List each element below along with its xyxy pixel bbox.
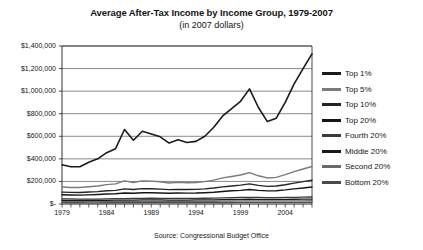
legend-swatch-icon	[322, 165, 341, 168]
legend-item-label: Top 20%	[345, 116, 376, 125]
y-axis-tick-label: $400,000	[0, 155, 56, 163]
legend-swatch-icon	[322, 103, 341, 106]
legend-swatch-icon	[322, 119, 341, 122]
legend-item-label: Fourth 20%	[345, 131, 386, 140]
x-axis-tick-label: 2004	[268, 209, 302, 217]
x-axis-tick-label: 1989	[134, 209, 168, 217]
legend-item-label: Middle 20%	[345, 147, 387, 156]
y-axis-tick-label: $1,000,000	[0, 87, 56, 95]
legend-item[interactable]: Top 20%	[322, 113, 423, 129]
legend-swatch-icon	[322, 181, 341, 184]
legend-item[interactable]: Top 5%	[322, 82, 423, 98]
legend-item-label: Second 20%	[345, 162, 390, 171]
y-axis-tick-label: $600,000	[0, 132, 56, 140]
y-axis-tick-label: $1,400,000	[0, 42, 56, 50]
legend-item-label: Top 1%	[345, 69, 372, 78]
legend-item-label: Bottom 20%	[345, 178, 389, 187]
data-series	[62, 54, 312, 203]
legend-item[interactable]: Fourth 20%	[322, 128, 423, 144]
legend-item[interactable]: Second 20%	[322, 159, 423, 175]
legend-swatch-icon	[322, 88, 341, 91]
y-axis-tick-label: $-	[0, 200, 56, 208]
axis-lines	[59, 46, 312, 204]
legend-item-label: Top 5%	[345, 85, 372, 94]
series-line	[62, 167, 312, 188]
chart-source: Source: Congressional Budget Office	[0, 232, 423, 239]
y-axis-tick-label: $200,000	[0, 177, 56, 185]
gridlines	[62, 46, 312, 204]
x-axis-ticks	[62, 204, 312, 208]
legend-item[interactable]: Top 10%	[322, 97, 423, 113]
x-axis-tick-label: 1999	[224, 209, 258, 217]
legend-swatch-icon	[322, 134, 341, 137]
legend-swatch-icon	[322, 150, 341, 153]
legend-item-label: Top 10%	[345, 100, 376, 109]
y-axis-tick-label: $800,000	[0, 110, 56, 118]
legend-item[interactable]: Top 1%	[322, 66, 423, 82]
chart-figure: Average After-Tax Income by Income Group…	[0, 0, 423, 250]
y-axis-tick-label: $1,200,000	[0, 65, 56, 73]
legend-swatch-icon	[322, 72, 341, 75]
legend-item[interactable]: Middle 20%	[322, 144, 423, 160]
series-line	[62, 54, 312, 167]
legend-item[interactable]: Bottom 20%	[322, 175, 423, 191]
x-axis-tick-label: 1984	[90, 209, 124, 217]
chart-legend: Top 1%Top 5%Top 10%Top 20%Fourth 20%Midd…	[322, 66, 423, 190]
x-axis-tick-label: 1979	[45, 209, 79, 217]
x-axis-tick-label: 1994	[179, 209, 213, 217]
